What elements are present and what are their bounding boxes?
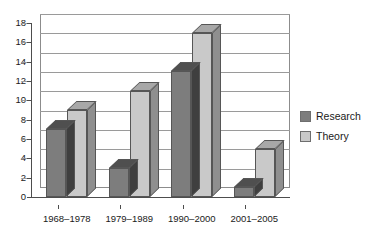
bar-front-face	[171, 71, 191, 197]
y-tick-mark	[27, 120, 31, 121]
gridline	[40, 14, 290, 15]
x-tick-mark	[120, 205, 121, 209]
bar	[234, 187, 254, 197]
plot-area	[31, 14, 290, 197]
y-tick-mark	[27, 197, 31, 198]
gridline	[40, 33, 290, 34]
legend-label: Research	[316, 111, 361, 122]
bar-side-face	[275, 140, 284, 197]
bar-front-face	[234, 187, 254, 197]
x-axis: 1968–19781979–19891990–20002001–2005	[31, 205, 299, 223]
gridline	[40, 91, 290, 92]
bar-chart: 024681012141618 1968–19781979–19891990–2…	[0, 0, 379, 236]
gridline	[40, 53, 290, 54]
y-tick-mark	[27, 62, 31, 63]
y-tick-mark	[27, 42, 31, 43]
y-tick-label: 0	[4, 192, 26, 202]
legend-label: Theory	[316, 131, 349, 142]
gridline	[40, 72, 290, 73]
y-tick-mark	[27, 100, 31, 101]
bar	[109, 168, 129, 197]
bar-side-face	[87, 101, 96, 197]
x-tick-label: 1990–2000	[162, 214, 222, 224]
legend-swatch-theory	[300, 131, 311, 142]
legend: ResearchTheory	[300, 108, 361, 148]
bar-side-face	[212, 24, 221, 197]
x-tick-label: 1979–1989	[99, 214, 159, 224]
bar-side-face	[191, 63, 200, 197]
x-tick-label: 2001–2005	[224, 214, 284, 224]
x-tick-label: 1968–1978	[37, 214, 97, 224]
y-axis-line	[31, 23, 32, 197]
y-tick-mark	[27, 23, 31, 24]
x-axis-line	[31, 197, 290, 198]
bar	[171, 71, 191, 197]
bar	[46, 129, 66, 197]
x-tick-mark	[58, 205, 59, 209]
x-tick-mark	[183, 205, 184, 209]
legend-swatch-research	[300, 111, 311, 122]
bar-side-face	[66, 121, 75, 197]
y-tick-mark	[27, 139, 31, 140]
bar-side-face	[150, 82, 159, 197]
x-tick-mark	[245, 205, 246, 209]
bar-front-face	[109, 168, 129, 197]
y-tick-mark	[27, 81, 31, 82]
legend-item: Theory	[300, 128, 361, 145]
legend-item: Research	[300, 108, 361, 125]
y-tick-mark	[27, 178, 31, 179]
bar-front-face	[46, 129, 66, 197]
y-tick-mark	[27, 158, 31, 159]
